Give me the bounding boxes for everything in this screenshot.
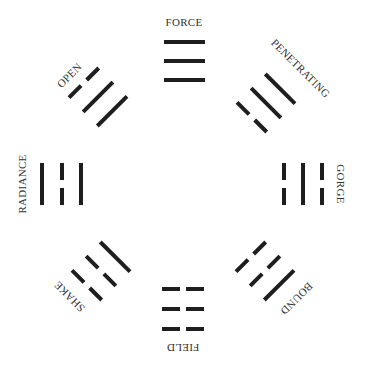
trigram-field: FIELD xyxy=(162,287,204,354)
line-solid xyxy=(82,81,115,114)
line-broken-top xyxy=(60,163,64,180)
line-solid xyxy=(99,241,132,274)
line-solid xyxy=(250,87,283,120)
line-broken-bottom xyxy=(282,188,286,205)
line-broken-top xyxy=(320,163,324,180)
label-penetrating: PENETRATING xyxy=(269,36,333,100)
trigram-shake: SHAKE xyxy=(51,241,131,315)
line-broken-right xyxy=(266,255,281,270)
line-broken-right xyxy=(186,327,204,331)
line-broken-left xyxy=(162,307,180,311)
label-force: FORCE xyxy=(166,16,203,28)
line-solid xyxy=(79,163,83,205)
line-broken-left xyxy=(71,269,86,284)
label-shake: SHAKE xyxy=(51,279,86,314)
line-broken-left xyxy=(162,287,180,291)
line-solid xyxy=(40,163,44,205)
trigram-force: FORCE xyxy=(164,16,205,82)
label-bound: BOUND xyxy=(278,280,315,317)
line-solid xyxy=(164,78,205,82)
line-broken-right xyxy=(186,287,204,291)
line-solid xyxy=(263,269,296,302)
trigram-bound: BOUND xyxy=(235,241,316,318)
trigram-gorge: GORGE xyxy=(282,163,347,205)
line-broken-left xyxy=(235,258,250,273)
line-broken-bottom xyxy=(60,188,64,205)
line-broken-right xyxy=(85,67,100,82)
line-broken-right xyxy=(186,307,204,311)
line-broken-bottom xyxy=(320,188,324,205)
line-solid xyxy=(164,40,205,44)
line-broken-left xyxy=(236,101,251,116)
label-radiance: RADIANCE xyxy=(16,154,28,213)
line-broken-right xyxy=(102,272,117,287)
line-solid xyxy=(96,95,129,128)
line-solid xyxy=(264,73,297,106)
trigram-open: OPEN xyxy=(54,60,128,127)
line-broken-top xyxy=(282,163,286,180)
line-solid xyxy=(164,59,205,63)
line-broken-left xyxy=(249,272,264,287)
line-broken-right xyxy=(252,241,267,256)
trigram-radiance: RADIANCE xyxy=(16,154,83,213)
line-broken-left xyxy=(85,255,100,270)
label-field: FIELD xyxy=(167,342,200,354)
trigram-diagram: FORCE FIELD RADIANCE GORGE PENETRATING xyxy=(0,0,367,377)
trigram-penetrating: PENETRATING xyxy=(236,36,333,133)
line-solid xyxy=(301,163,305,205)
label-gorge: GORGE xyxy=(335,164,347,203)
line-broken-left xyxy=(68,84,83,99)
line-broken-right xyxy=(253,119,268,134)
line-broken-left xyxy=(162,327,180,331)
line-broken-right xyxy=(88,287,103,302)
